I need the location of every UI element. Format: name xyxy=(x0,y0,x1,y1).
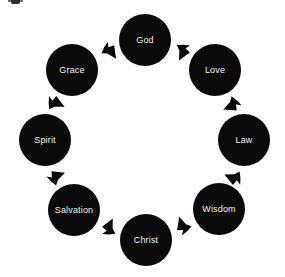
node-label: Law xyxy=(236,135,253,145)
cycle-node-grace[interactable]: Grace xyxy=(46,44,98,96)
flow-arrow-god-to-love xyxy=(172,41,192,63)
node-label: Wisdom xyxy=(202,204,235,214)
flow-arrow-love-to-law xyxy=(220,94,243,116)
node-label: God xyxy=(136,35,153,45)
cycle-node-law[interactable]: Law xyxy=(218,114,270,166)
cycle-node-spirit[interactable]: Spirit xyxy=(19,114,71,166)
arrow-icon xyxy=(99,40,122,63)
arrow-icon xyxy=(172,214,193,237)
node-layer: GodLoveLawWisdomChristSalvationSpiritGra… xyxy=(19,14,270,266)
cycle-node-salvation[interactable]: Salvation xyxy=(48,184,100,236)
arrow-icon xyxy=(172,41,192,63)
flow-arrow-salvation-to-spirit xyxy=(45,166,68,188)
flow-arrow-spirit-to-grace xyxy=(45,94,67,114)
cycle-node-love[interactable]: Love xyxy=(189,44,241,96)
node-label: Christ xyxy=(134,235,159,245)
node-label: Love xyxy=(205,65,225,75)
arrow-icon xyxy=(45,94,67,114)
flow-arrow-christ-to-salvation xyxy=(100,216,120,238)
flow-arrow-grace-to-god xyxy=(99,40,122,63)
diagram-canvas: GodLoveLawWisdomChristSalvationSpiritGra… xyxy=(0,0,285,277)
cycle-node-god[interactable]: God xyxy=(119,14,171,66)
node-label: Salvation xyxy=(55,205,93,215)
cycle-node-christ[interactable]: Christ xyxy=(120,214,172,266)
node-label: Spirit xyxy=(34,135,56,145)
arrow-icon xyxy=(45,166,68,188)
arrow-icon xyxy=(220,94,243,116)
cycle-diagram: GodLoveLawWisdomChristSalvationSpiritGra… xyxy=(0,0,285,277)
node-label: Grace xyxy=(59,65,84,75)
cycle-node-wisdom[interactable]: Wisdom xyxy=(193,183,245,235)
flow-arrow-wisdom-to-christ xyxy=(172,214,193,237)
arrow-icon xyxy=(100,216,120,238)
